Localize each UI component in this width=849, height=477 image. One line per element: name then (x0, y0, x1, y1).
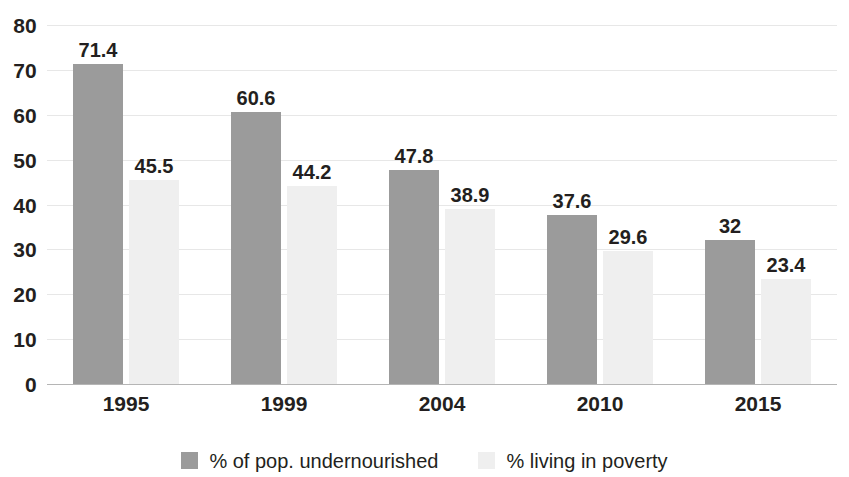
bar: 23.4 (761, 279, 811, 384)
legend-swatch-icon (181, 452, 198, 469)
legend-label: % of pop. undernourished (209, 451, 438, 471)
y-tick-label: 20 (13, 284, 37, 305)
gridline (47, 115, 837, 116)
bar-value-label: 45.5 (135, 156, 174, 176)
bar-value-label: 38.9 (451, 185, 490, 205)
y-tick-label: 0 (25, 374, 37, 395)
bar-value-label: 23.4 (767, 255, 806, 275)
y-tick-label: 80 (13, 15, 37, 36)
bar: 71.4 (73, 64, 123, 384)
legend-item[interactable]: % of pop. undernourished (181, 451, 438, 471)
y-tick-label: 70 (13, 59, 37, 80)
y-tick-label: 30 (13, 239, 37, 260)
bar: 44.2 (287, 186, 337, 384)
bar-value-label: 47.8 (395, 146, 434, 166)
bar-value-label: 29.6 (609, 227, 648, 247)
legend-item[interactable]: % living in poverty (478, 451, 667, 471)
y-tick-label: 40 (13, 194, 37, 215)
y-tick-label: 10 (13, 329, 37, 350)
y-tick-label: 60 (13, 104, 37, 125)
x-tick-label: 2004 (419, 393, 466, 414)
legend-swatch-icon (478, 452, 495, 469)
x-tick-label: 1999 (261, 393, 308, 414)
bar: 45.5 (129, 180, 179, 384)
bar: 47.8 (389, 170, 439, 385)
bar: 32 (705, 240, 755, 384)
bar: 29.6 (603, 251, 653, 384)
x-axis: 19951999200420102015 (47, 385, 837, 425)
bar-value-label: 71.4 (79, 40, 118, 60)
legend-label: % living in poverty (506, 451, 667, 471)
plot-area: 71.445.560.644.247.838.937.629.63223.4 (47, 25, 837, 384)
gridline (47, 70, 837, 71)
bar-value-label: 32 (719, 216, 741, 236)
x-tick-label: 2015 (735, 393, 782, 414)
x-tick-label: 2010 (577, 393, 624, 414)
bar-value-label: 37.6 (553, 191, 592, 211)
bar: 38.9 (445, 209, 495, 384)
bar-chart: 01020304050607080 71.445.560.644.247.838… (0, 0, 849, 477)
bar: 37.6 (547, 215, 597, 384)
x-tick-label: 1995 (103, 393, 150, 414)
y-tick-label: 50 (13, 149, 37, 170)
bar-value-label: 60.6 (237, 88, 276, 108)
bar-value-label: 44.2 (293, 162, 332, 182)
y-axis: 01020304050607080 (0, 0, 47, 477)
gridline (47, 25, 837, 26)
chart-legend: % of pop. undernourished% living in pove… (0, 444, 849, 477)
bar: 60.6 (231, 112, 281, 384)
